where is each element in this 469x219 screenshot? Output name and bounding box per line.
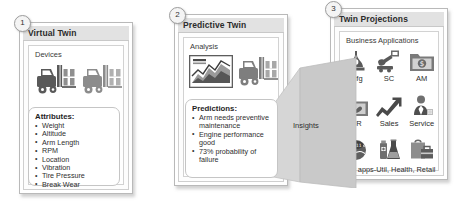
step-badge-2: 2 (169, 7, 186, 24)
service-agent-icon (405, 92, 438, 118)
app-tile-sc[interactable]: SC (373, 47, 406, 83)
attributes-heading: Attributes: (35, 112, 114, 121)
predictions-list: Arm needs preventive maintenance Engine … (192, 114, 272, 164)
app-label: Sales (373, 119, 406, 128)
app-tile-health[interactable] (373, 136, 406, 163)
step-badge-1: 1 (14, 15, 31, 32)
app-label: Service (405, 119, 438, 128)
area-chart-icon (189, 55, 233, 88)
svg-text:$: $ (419, 60, 423, 68)
insights-label: Insights (293, 121, 319, 130)
app-label: AM (405, 74, 438, 83)
list-item: Break Wear (35, 181, 114, 189)
app-label: SC (373, 74, 406, 83)
retail-bag-icon (405, 136, 438, 162)
panel-2-sublabel: Analysis (190, 42, 218, 51)
panel-3-title: Twin Projections (334, 12, 444, 27)
forklift-icon (35, 64, 77, 97)
panel-1-title: Virtual Twin (23, 26, 129, 41)
panel-3-sublabel: Business Applications (346, 36, 419, 45)
attributes-list: Weight Altitude Arm Length RPM Location … (35, 122, 114, 189)
attributes-callout: Attributes: Weight Altitude Arm Length R… (28, 107, 120, 186)
health-flask-icon (373, 136, 406, 162)
predictions-heading: Predictions: (192, 104, 272, 113)
list-item: 73% probability of failure (192, 148, 272, 165)
diagram-canvas: Insights Virtual Twin Devices (0, 0, 469, 219)
app-tile-am[interactable]: $ AM (405, 47, 438, 83)
panel-2-title: Predictive Twin (178, 18, 284, 33)
predictions-callout: Predictions: Arm needs preventive mainte… (185, 99, 278, 178)
app-tile-retail[interactable] (405, 136, 438, 163)
forklift-icon (81, 64, 123, 97)
step-badge-3: 3 (325, 1, 342, 18)
asset-folder-icon: $ (405, 47, 438, 73)
crane-icon (373, 47, 406, 73)
list-item: Engine performance good (192, 131, 272, 148)
list-item: Arm needs preventive maintenance (192, 114, 272, 131)
growth-arrow-icon (373, 92, 406, 118)
app-tile-sales[interactable]: Sales (373, 92, 406, 128)
panel-1-sublabel: Devices (35, 50, 62, 59)
app-tile-service[interactable]: Service (405, 92, 438, 128)
